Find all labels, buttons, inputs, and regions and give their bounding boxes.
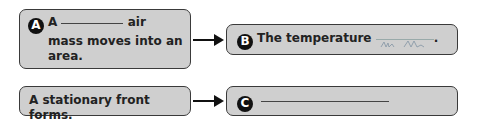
stationary-front-text: A stationary front forms. [29,93,150,121]
blank-c[interactable] [261,101,389,102]
badge-a: A [28,18,44,34]
effect-box-c: C [226,86,458,116]
arrow-a-to-b [193,39,222,41]
badge-c: C [237,96,253,112]
cause-box-a: AA air mass moves into an area. [19,9,191,69]
cause-box-stationary: A stationary front forms. [19,86,191,116]
blank-b[interactable] [376,39,434,40]
arrow-stationary-to-c [193,100,222,102]
box-a-line-2: mass moves into an [28,34,184,49]
badge-b: B [237,34,253,50]
box-a-line-1: AA air [28,15,184,34]
box-a-line-3: area. [28,49,184,64]
handwriting-icon [380,37,430,49]
effect-box-b: BThe temperature . [226,24,458,55]
blank-a[interactable] [61,23,123,24]
